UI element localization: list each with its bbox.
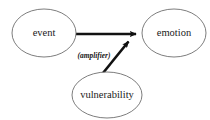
node-emotion-label: emotion xyxy=(157,27,192,38)
node-vulnerability-label: vulnerability xyxy=(80,89,134,100)
diagram-canvas: event emotion vulnerability (amplifier) xyxy=(0,0,210,120)
node-vulnerability[interactable]: vulnerability xyxy=(72,72,142,118)
node-event[interactable]: event xyxy=(12,9,76,57)
node-event-label: event xyxy=(33,27,56,38)
diagram-svg: event emotion vulnerability (amplifier) xyxy=(0,0,210,120)
edge-label-amplifier: (amplifier) xyxy=(78,51,111,60)
node-emotion[interactable]: emotion xyxy=(142,9,206,57)
